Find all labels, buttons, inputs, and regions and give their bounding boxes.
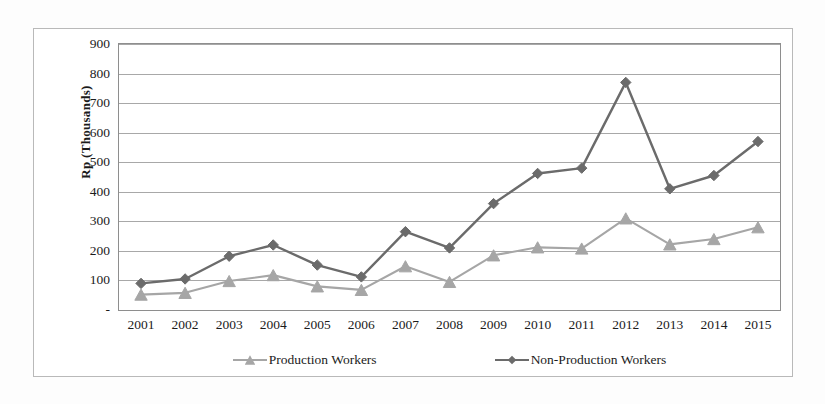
data-point-marker: Non-Production Workers 2001: 90 [136,278,146,288]
triangle-marker-icon [233,354,267,366]
y-axis-tick-label: 500 [64,155,110,169]
chart-legend: Production WorkersNon-Production Workers [118,347,781,373]
x-axis-tick-labels: 2001200220032004200520062007200820092010… [118,317,781,337]
plot-series-svg: Production Workers 2001: 52Production Wo… [119,44,780,310]
legend-key-marker [507,355,517,365]
data-point-marker: Production Workers 2008: 95 [443,276,455,287]
chart-figure: Rp (Thousands) -100200300400500600700800… [0,0,825,404]
data-point-marker: Non-Production Workers 2004: 220 [268,240,278,250]
legend-key-marker [245,355,255,365]
chart-outer-frame: Rp (Thousands) -100200300400500600700800… [33,28,793,377]
x-axis-tick-label: 2015 [728,317,788,333]
legend-item-non-production-workers[interactable]: Non-Production Workers [495,352,667,368]
legend-label: Non-Production Workers [531,352,667,368]
y-axis-tick-label: 100 [64,274,110,288]
y-axis-tick-labels: -100200300400500600700800900 [64,29,110,311]
y-axis-tick-label: 600 [64,126,110,140]
data-point-marker: Non-Production Workers 2005: 152 [312,260,322,270]
data-point-marker: Production Workers 2015: 280 [752,222,764,233]
data-point-marker: Production Workers 2007: 148 [399,261,411,272]
data-point-marker: Non-Production Workers 2013: 410 [665,184,675,194]
y-axis-tick-label: - [64,303,110,317]
series-non-production-workers: Non-Production Workers 2001: 90Non-Produ… [136,77,763,288]
data-point-marker: Non-Production Workers 2002: 105 [180,274,190,284]
plot-area: Production Workers 2001: 52Production Wo… [118,43,781,311]
y-axis-tick-label: 400 [64,185,110,199]
diamond-marker-icon [495,354,529,366]
y-axis-tick-label: 900 [64,37,110,51]
data-point-marker: Non-Production Workers 2003: 182 [224,251,234,261]
data-point-marker: Non-Production Workers 2011: 480 [577,163,587,173]
legend-item-production-workers[interactable]: Production Workers [233,352,377,368]
data-point-marker: Non-Production Workers 2012: 770 [621,77,631,87]
y-axis-tick-label: 300 [64,215,110,229]
y-axis-tick-label: 700 [64,96,110,110]
y-axis-tick-label: 200 [64,244,110,258]
legend-label: Production Workers [269,352,377,368]
y-axis-tick-label: 800 [64,67,110,81]
data-point-marker: Production Workers 2012: 310 [620,213,632,224]
